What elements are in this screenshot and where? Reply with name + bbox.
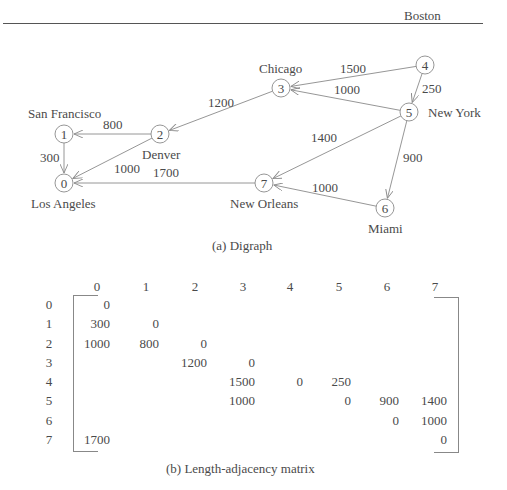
matrix-col-header: 7: [425, 280, 445, 293]
node-3: 3: [272, 79, 290, 97]
city-label-new-orleans: New Orleans: [230, 197, 298, 210]
matrix-cell: 300: [70, 317, 110, 330]
edge-weight-1-0: 300: [40, 151, 60, 164]
node-id-label: 2: [157, 127, 164, 142]
matrix-row-header: 0: [41, 298, 57, 311]
node-6: 6: [376, 199, 394, 217]
matrix-col-header: 0: [87, 280, 107, 293]
node-7: 7: [255, 174, 273, 192]
matrix-col-header: 5: [329, 280, 349, 293]
matrix-row-header: 2: [41, 337, 57, 350]
edge-5-7: [273, 116, 401, 179]
matrix-cell: 1000: [215, 394, 255, 407]
edge-weight-7-0: 1700: [153, 166, 179, 179]
matrix-cell: 0: [167, 337, 207, 350]
edge-weight-4-3: 1500: [340, 62, 366, 75]
node-id-label: 1: [61, 127, 68, 142]
edge-weight-5-3: 1000: [334, 83, 360, 96]
matrix-row-header: 3: [41, 356, 57, 369]
matrix-cell: 250: [311, 375, 351, 388]
matrix-col-header: 1: [136, 280, 156, 293]
matrix-cell: 0: [263, 375, 303, 388]
edge-weight-2-1: 800: [103, 118, 123, 131]
node-2: 2: [151, 125, 169, 143]
edge-weight-2-0: 1000: [114, 162, 140, 175]
edge-4-5: [412, 74, 422, 103]
matrix-cell: 1000: [407, 414, 447, 427]
matrix-cell: 1200: [167, 356, 207, 369]
node-id-label: 6: [382, 201, 389, 216]
digraph-caption: (a) Digraph: [212, 239, 272, 252]
edge-weight-3-2: 1200: [208, 96, 234, 109]
city-label-new-york: New York: [428, 106, 481, 119]
matrix-row-header: 7: [41, 433, 57, 446]
node-id-label: 7: [261, 176, 268, 191]
matrix-cell: 1500: [215, 375, 255, 388]
node-4: 4: [416, 56, 434, 74]
edge-weight-4-5: 250: [422, 82, 442, 95]
city-label-denver: Denver: [142, 148, 180, 161]
matrix-cell: 900: [359, 394, 399, 407]
matrix-col-header: 6: [377, 280, 397, 293]
matrix-row-header: 5: [41, 394, 57, 407]
matrix-cell: 1400: [407, 394, 447, 407]
nodes-group: 01234567: [55, 56, 434, 217]
city-label-san-francisco: San Francisco: [28, 107, 101, 120]
city-label-chicago: Chicago: [259, 62, 302, 75]
city-label-los-angeles: Los Angeles: [31, 197, 96, 210]
node-id-label: 0: [61, 176, 68, 191]
node-id-label: 3: [278, 81, 285, 96]
edge-2-0: [73, 138, 152, 178]
matrix-cell: 0: [359, 414, 399, 427]
edge-weight-6-7: 1000: [312, 181, 338, 194]
node-id-label: 4: [422, 58, 429, 73]
matrix-right-bracket: [434, 297, 459, 453]
node-id-label: 5: [406, 105, 413, 120]
edge-weight-5-6: 900: [403, 151, 423, 164]
node-0: 0: [55, 174, 73, 192]
matrix-caption: (b) Length-adjacency matrix: [166, 462, 315, 475]
matrix-row-header: 1: [41, 317, 57, 330]
city-label-miami: Miami: [368, 222, 403, 235]
edge-weight-5-7: 1400: [311, 131, 337, 144]
edges-group: [64, 66, 422, 206]
node-5: 5: [400, 103, 418, 121]
matrix-row-header: 6: [41, 414, 57, 427]
matrix-row-header: 4: [41, 375, 57, 388]
matrix-cell: 0: [119, 317, 159, 330]
matrix-cell: 1700: [70, 433, 110, 446]
matrix-cell: 0: [70, 298, 110, 311]
node-1: 1: [55, 125, 73, 143]
city-label-boston: Boston: [404, 9, 441, 22]
matrix-cell: 0: [215, 356, 255, 369]
matrix-col-header: 4: [280, 280, 300, 293]
matrix-cell: 800: [119, 337, 159, 350]
matrix-cell: 0: [407, 433, 447, 446]
matrix-col-header: 3: [233, 280, 253, 293]
matrix-col-header: 2: [185, 280, 205, 293]
matrix-cell: 0: [311, 394, 351, 407]
matrix-cell: 1000: [70, 337, 110, 350]
